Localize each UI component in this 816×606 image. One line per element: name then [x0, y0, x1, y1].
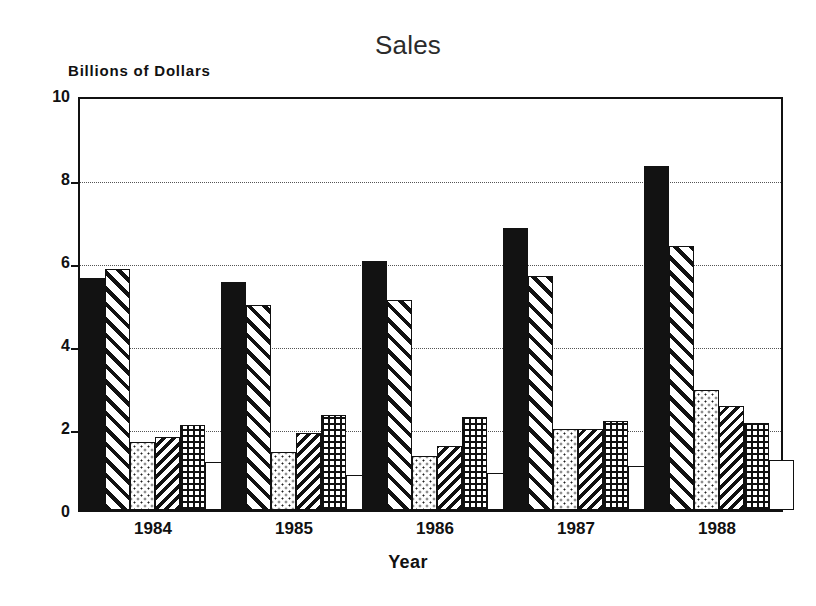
y-axis-label-0: 0: [30, 503, 70, 521]
y-tick-4: [71, 348, 80, 350]
bar-1987-series-4[interactable]: [578, 429, 603, 510]
sales-bar-chart: Sales Billions of Dollars 0246810 198419…: [0, 0, 816, 606]
bar-1985-series-1[interactable]: [221, 282, 246, 510]
bar-1985-series-2[interactable]: [246, 305, 271, 510]
bar-1985-series-5[interactable]: [321, 415, 346, 510]
bar-1988-series-1[interactable]: [644, 166, 669, 510]
bar-1985-series-3[interactable]: [271, 452, 296, 510]
bar-1987-series-5[interactable]: [603, 421, 628, 510]
bar-1986-series-3[interactable]: [412, 456, 437, 510]
bar-1984-series-5[interactable]: [180, 425, 205, 510]
bar-1987-series-3[interactable]: [553, 429, 578, 510]
y-axis-label-4: 4: [30, 337, 70, 355]
x-axis-tick-labels: 19841985198619871988: [78, 519, 783, 543]
bar-1984-series-2[interactable]: [105, 269, 130, 510]
y-axis-label-8: 8: [30, 171, 70, 189]
x-axis-label-1987: 1987: [557, 519, 595, 539]
bar-1988-series-5[interactable]: [744, 423, 769, 510]
y-tick-6: [71, 265, 80, 267]
chart-title: Sales: [0, 30, 816, 61]
x-axis-title: Year: [0, 552, 816, 573]
y-axis-title: Billions of Dollars: [68, 62, 211, 79]
bar-1986-series-4[interactable]: [437, 446, 462, 510]
y-axis-label-2: 2: [30, 420, 70, 438]
bar-group-1985: [221, 99, 371, 510]
bar-1988-series-4[interactable]: [719, 406, 744, 510]
bar-1988-series-3[interactable]: [694, 390, 719, 510]
bar-group-1986: [362, 99, 512, 510]
bar-1984-series-3[interactable]: [130, 442, 155, 510]
y-tick-2: [71, 431, 80, 433]
bar-group-1988: [644, 99, 794, 510]
bar-group-1987: [503, 99, 653, 510]
plot-area: [78, 97, 783, 512]
x-axis-label-1986: 1986: [416, 519, 454, 539]
bar-1986-series-5[interactable]: [462, 417, 487, 510]
x-axis-label-1985: 1985: [275, 519, 313, 539]
bar-1987-series-1[interactable]: [503, 228, 528, 510]
y-axis-tick-labels: 0246810: [26, 97, 70, 512]
bar-1985-series-4[interactable]: [296, 433, 321, 510]
bar-1986-series-2[interactable]: [387, 300, 412, 510]
bar-1984-series-1[interactable]: [80, 278, 105, 510]
y-tick-8: [71, 182, 80, 184]
y-axis-label-6: 6: [30, 254, 70, 272]
bar-1987-series-2[interactable]: [528, 276, 553, 510]
x-axis-label-1984: 1984: [134, 519, 172, 539]
bar-1988-series-2[interactable]: [669, 246, 694, 510]
y-axis-label-10: 10: [30, 88, 70, 106]
bar-1986-series-1[interactable]: [362, 261, 387, 510]
bar-1988-series-6[interactable]: [769, 460, 794, 510]
x-axis-label-1988: 1988: [698, 519, 736, 539]
bar-1984-series-4[interactable]: [155, 437, 180, 510]
bar-group-1984: [80, 99, 230, 510]
